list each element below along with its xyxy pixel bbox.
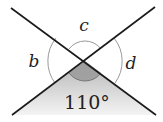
angle-label-d: d	[126, 53, 137, 73]
angle-c-arc	[69, 41, 101, 49]
intersecting-lines-diagram: c b d 110°	[0, 0, 163, 122]
angle-b-arc	[48, 38, 56, 83]
given-angle-value: 110°	[64, 91, 110, 113]
diagram-canvas: c b d 110°	[0, 0, 163, 122]
angle-label-c: c	[79, 15, 89, 35]
angle-label-b: b	[29, 51, 40, 71]
angle-d-arc	[114, 38, 122, 83]
